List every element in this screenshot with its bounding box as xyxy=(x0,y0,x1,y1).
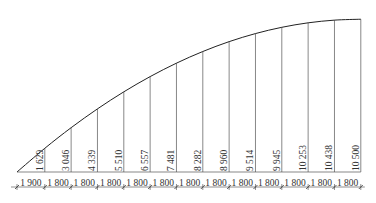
ordinate-label: 9 945 xyxy=(272,149,282,171)
ordinate-label: 10 500 xyxy=(351,145,361,171)
arch-profile-diagram: 1 6293 0464 3395 5106 5577 4818 2828 960… xyxy=(0,0,376,203)
ordinate-label: 3 046 xyxy=(61,149,71,171)
ordinate-label: 6 557 xyxy=(140,149,150,171)
span-label: 1 800 xyxy=(100,178,122,188)
ordinate-label: 4 339 xyxy=(87,149,97,171)
ordinate-label: 10 438 xyxy=(324,145,334,171)
ordinate-label: 7 481 xyxy=(166,149,176,171)
span-label: 1 800 xyxy=(258,178,280,188)
span-label: 1 800 xyxy=(74,178,96,188)
span-label: 1 800 xyxy=(47,178,69,188)
ordinate-lines xyxy=(45,19,361,172)
ordinate-label: 5 510 xyxy=(114,149,124,171)
diagram-svg: 1 6293 0464 3395 5106 5577 4818 2828 960… xyxy=(0,0,376,203)
ordinate-label: 8 282 xyxy=(193,149,203,171)
span-label: 1 800 xyxy=(153,178,175,188)
dimension-line: 1 9001 8001 8001 8001 8001 8001 8001 800… xyxy=(11,178,365,191)
ordinate-label: 1 629 xyxy=(35,149,45,171)
ordinate-labels: 1 6293 0464 3395 5106 5577 4818 2828 960… xyxy=(35,145,361,171)
arch-curve xyxy=(17,19,361,172)
span-label: 1 800 xyxy=(337,178,359,188)
span-label: 1 800 xyxy=(179,178,201,188)
span-label: 1 800 xyxy=(126,178,148,188)
ordinate-label: 8 960 xyxy=(219,149,229,171)
span-label: 1 800 xyxy=(232,178,254,188)
span-label: 1 900 xyxy=(20,178,42,188)
span-label: 1 800 xyxy=(311,178,333,188)
ordinate-label: 10 253 xyxy=(298,145,308,171)
span-label: 1 800 xyxy=(284,178,306,188)
span-label: 1 800 xyxy=(205,178,227,188)
ordinate-label: 9 514 xyxy=(245,149,255,171)
